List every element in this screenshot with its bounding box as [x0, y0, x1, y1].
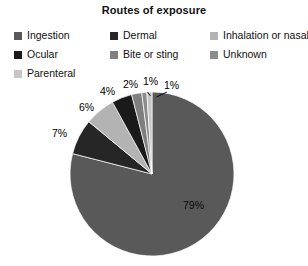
chart-legend: Ingestion Dermal Inhalation or nasal Ocu…: [14, 26, 302, 83]
legend-item-label: Bite or sting: [123, 49, 178, 60]
legend-item-inhalation-or-nasal[interactable]: Inhalation or nasal: [210, 26, 302, 45]
legend-item-label: Dermal: [123, 30, 157, 41]
slice-label-dermal: 7%: [52, 128, 67, 139]
leader-line-unknown: [157, 92, 168, 97]
legend-swatch-icon: [210, 51, 218, 59]
legend-swatch-icon: [14, 70, 22, 78]
chart-title: Routes of exposure: [0, 4, 308, 16]
legend-item-ocular[interactable]: Ocular: [14, 45, 110, 64]
slice-label-ingestion: 79%: [183, 200, 204, 211]
slice-label-ocular: 4%: [100, 86, 115, 97]
legend-item-unknown[interactable]: Unknown: [210, 45, 302, 64]
legend-item-bite-or-sting[interactable]: Bite or sting: [110, 45, 210, 64]
legend-item-label: Unknown: [223, 49, 267, 60]
legend-item-dermal[interactable]: Dermal: [110, 26, 210, 45]
legend-item-ingestion[interactable]: Ingestion: [14, 26, 110, 45]
leader-lines: [148, 92, 168, 97]
pie-slice[interactable]: [70, 92, 234, 256]
legend-item-label: Inhalation or nasal: [223, 30, 308, 41]
pie-slice[interactable]: [132, 93, 152, 174]
pie-slice[interactable]: [147, 92, 152, 174]
legend-swatch-icon: [14, 51, 22, 59]
pie-slices: [70, 92, 234, 256]
slice-label-inhalation-or-nasal: 6%: [79, 102, 94, 113]
legend-swatch-icon: [110, 32, 118, 40]
legend-item-label: Ocular: [27, 49, 58, 60]
leader-line-parenteral: [148, 92, 151, 96]
legend-item-label: Ingestion: [27, 30, 70, 41]
legend-item-label: Parenteral: [27, 68, 75, 79]
slice-label-unknown: 1%: [164, 80, 179, 91]
legend-swatch-icon: [110, 51, 118, 59]
legend-swatch-icon: [14, 32, 22, 40]
pie-slice[interactable]: [142, 92, 152, 174]
pie-slice[interactable]: [89, 102, 152, 174]
slice-label-bite-or-sting: 2%: [123, 79, 138, 90]
pie-slice[interactable]: [113, 95, 153, 174]
pie-slice[interactable]: [73, 122, 152, 174]
pie-chart-figure: Routes of exposure Ingestion Dermal Inha…: [0, 0, 308, 266]
legend-item-parenteral[interactable]: Parenteral: [14, 64, 110, 83]
legend-swatch-icon: [210, 32, 218, 40]
slice-label-parenteral: 1%: [143, 76, 158, 87]
